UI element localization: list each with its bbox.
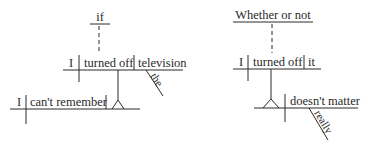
clause-verb: turned off: [84, 56, 134, 70]
clause-object: it: [308, 55, 315, 69]
clause-verb: turned off: [253, 55, 303, 69]
main-subject: I: [17, 95, 21, 109]
pedestal-triangle: [112, 100, 124, 109]
clause-subject: I: [239, 55, 243, 69]
right-diagram: Whether or not I turned off it doesn't m…: [233, 8, 361, 140]
sentence-diagrams: if I turned off television the I can't r…: [0, 0, 368, 150]
main-verb: can't remember: [30, 95, 108, 109]
pedestal-triangle: [263, 99, 279, 108]
object-modifier: the: [148, 71, 165, 89]
subordinator-word: if: [96, 10, 104, 24]
left-diagram: if I turned off television the I can't r…: [10, 10, 187, 124]
subordinator-phrase: Whether or not: [235, 8, 311, 22]
clause-object: television: [138, 56, 187, 70]
clause-subject: I: [69, 56, 73, 70]
main-predicate: doesn't matter: [290, 94, 361, 108]
predicate-modifier: really: [312, 108, 335, 136]
